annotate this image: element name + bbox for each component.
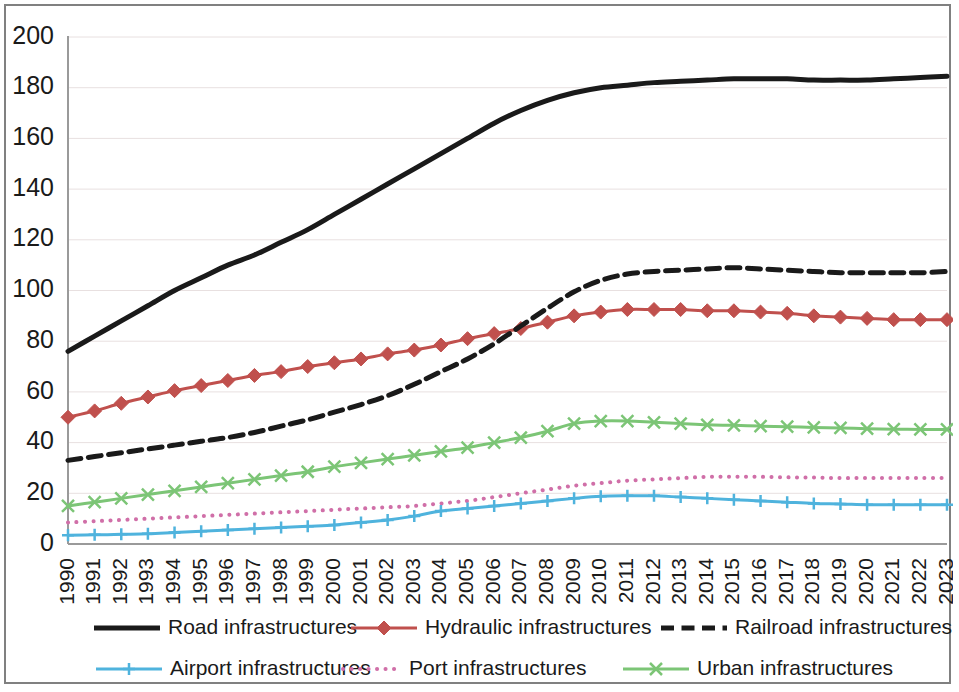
data-point-marker (834, 498, 846, 510)
data-point-marker (274, 365, 288, 379)
data-point-marker (594, 305, 608, 319)
data-point-marker (727, 304, 741, 318)
data-point-marker (354, 352, 368, 366)
data-point-marker (62, 529, 74, 541)
x-tick-label: 2022 (907, 558, 930, 605)
x-tick-label: 2007 (507, 558, 530, 605)
x-tick-label: 2014 (694, 558, 717, 605)
y-tick-label: 40 (26, 426, 54, 454)
line-chart: 0204060801001201401601802001990199119921… (6, 6, 953, 686)
data-point-marker (941, 499, 953, 511)
legend-item[interactable]: Hydraulic infrastructures (351, 615, 651, 638)
y-tick-label: 80 (26, 325, 54, 353)
legend-item[interactable]: Port infrastructures (343, 656, 586, 679)
y-tick-label: 60 (26, 376, 54, 404)
x-tick-label: 2000 (321, 558, 344, 605)
data-point-marker (515, 497, 527, 509)
chart-frame: 0204060801001201401601802001990199119921… (4, 4, 951, 684)
legend: Road infrastructuresHydraulic infrastruc… (94, 615, 952, 679)
legend-item[interactable]: Railroad infrastructures (661, 615, 952, 638)
legend-label: Hydraulic infrastructures (425, 615, 651, 638)
series-line (68, 268, 947, 461)
plot-area: 0204060801001201401601802001990199119921… (6, 6, 949, 682)
series-line (68, 309, 947, 417)
x-tick-label: 1998 (268, 558, 291, 605)
data-point-marker (913, 313, 927, 327)
legend-item[interactable]: Airport infrastructures (96, 656, 371, 679)
x-tick-label: 1996 (214, 558, 237, 605)
data-point-marker (377, 621, 391, 635)
x-tick-label: 2019 (827, 558, 850, 605)
data-point-marker (674, 303, 688, 317)
legend-item[interactable]: Urban infrastructures (623, 656, 893, 679)
data-point-marker (61, 410, 75, 424)
data-point-marker (222, 524, 234, 536)
x-tick-label: 2020 (854, 558, 877, 605)
data-point-marker (940, 313, 953, 327)
y-tick-label: 140 (12, 173, 54, 201)
x-tick-label: 1993 (134, 558, 157, 605)
legend-label: Urban infrastructures (697, 656, 893, 679)
data-point-marker (887, 313, 901, 327)
data-point-marker (382, 514, 394, 526)
data-point-marker (700, 304, 714, 318)
data-point-marker (833, 310, 847, 324)
data-point-marker (888, 499, 900, 511)
y-tick-label: 0 (40, 528, 54, 556)
data-point-marker (540, 315, 554, 329)
data-point-marker (301, 360, 315, 374)
x-tick-label: 2016 (747, 558, 770, 605)
data-point-marker (114, 396, 128, 410)
data-point-marker (755, 495, 767, 507)
data-point-marker (807, 309, 821, 323)
x-tick-label: 1995 (188, 558, 211, 605)
data-point-marker (221, 373, 235, 387)
data-point-marker (408, 510, 420, 522)
data-point-marker (327, 356, 341, 370)
data-point-marker (861, 499, 873, 511)
y-tick-label: 20 (26, 477, 54, 505)
data-point-marker (381, 347, 395, 361)
data-point-marker (407, 343, 421, 357)
series-line (68, 496, 947, 535)
y-tick-label: 100 (12, 274, 54, 302)
data-point-marker (435, 505, 447, 517)
x-tick-label: 2013 (667, 558, 690, 605)
data-point-marker (169, 527, 181, 539)
x-tick-label: 2018 (800, 558, 823, 605)
legend-label: Railroad infrastructures (735, 615, 952, 638)
x-tick-label: 2011 (614, 558, 637, 603)
data-point-marker (248, 523, 260, 535)
x-tick-label: 1994 (161, 558, 184, 605)
x-tick-label: 2023 (934, 558, 953, 605)
data-point-marker (620, 303, 634, 317)
data-point-marker (355, 516, 367, 528)
data-point-marker (781, 496, 793, 508)
data-point-marker (621, 490, 633, 502)
x-tick-label: 2008 (534, 558, 557, 605)
data-point-marker (142, 528, 154, 540)
x-tick-label: 2006 (481, 558, 504, 605)
legend-label: Road infrastructures (168, 615, 357, 638)
x-axis-labels: 1990199119921993199419951996199719981999… (55, 558, 953, 605)
data-point-marker (567, 309, 581, 323)
legend-label: Port infrastructures (409, 656, 586, 679)
data-point-marker (434, 338, 448, 352)
data-point-marker (914, 499, 926, 511)
data-point-marker (168, 384, 182, 398)
x-tick-label: 1992 (108, 558, 131, 605)
data-point-marker (462, 503, 474, 515)
data-point-marker (780, 306, 794, 320)
x-tick-label: 2002 (374, 558, 397, 605)
y-tick-label: 200 (12, 21, 54, 49)
x-tick-label: 2001 (348, 558, 371, 605)
series-urban-infrastructures (62, 415, 953, 512)
x-tick-label: 2009 (561, 558, 584, 605)
legend-item[interactable]: Road infrastructures (94, 615, 357, 638)
data-point-marker (115, 528, 127, 540)
data-point-marker (123, 663, 135, 675)
data-point-marker (194, 379, 208, 393)
data-point-marker (461, 332, 475, 346)
data-point-marker (328, 519, 340, 531)
x-tick-label: 1999 (294, 558, 317, 605)
